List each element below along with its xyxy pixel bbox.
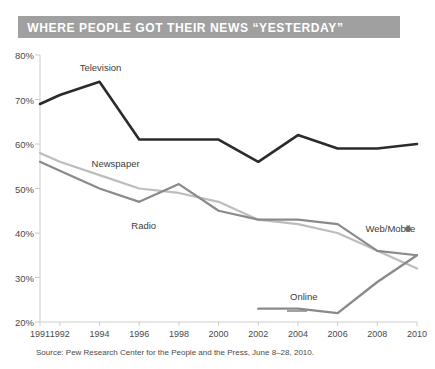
series-label-radio: Radio xyxy=(131,220,156,231)
y-axis-tick-label: 50% xyxy=(8,183,34,194)
y-axis-tick-label: 70% xyxy=(8,94,34,105)
y-axis-tick-label: 60% xyxy=(8,139,34,150)
y-axis-ticks xyxy=(35,55,40,322)
x-axis-tick-label: 1998 xyxy=(169,329,189,339)
series-label-online: Online xyxy=(290,291,317,302)
series-line-newspaper xyxy=(40,153,417,269)
x-axis-tick-label: 1996 xyxy=(129,329,149,339)
y-axis-tick-label: 80% xyxy=(8,50,34,61)
line-chart-svg xyxy=(0,0,435,369)
data-series-group xyxy=(40,82,417,313)
x-axis-ticks xyxy=(40,322,417,326)
web-mobile-marker-dot xyxy=(405,226,411,232)
source-note: Source: Pew Research Center for the Peop… xyxy=(36,348,314,357)
x-axis-tick-label: 2004 xyxy=(288,329,308,339)
x-axis-tick-label: 2002 xyxy=(248,329,268,339)
series-line-online xyxy=(258,255,417,313)
x-axis-tick-label: 1991 xyxy=(30,329,50,339)
x-axis-tick-label: 2000 xyxy=(209,329,229,339)
y-axis-tick-label: 40% xyxy=(8,228,34,239)
x-axis-tick-label: 1994 xyxy=(90,329,110,339)
axes-group xyxy=(40,55,417,322)
series-label-television: Television xyxy=(80,62,122,73)
series-line-television xyxy=(40,82,417,162)
x-axis-tick-label: 2006 xyxy=(328,329,348,339)
y-axis-tick-label: 30% xyxy=(8,272,34,283)
news-source-chart-figure: WHERE PEOPLE GOT THEIR NEWS “YESTERDAY” … xyxy=(0,0,435,369)
x-axis-tick-label: 1992 xyxy=(50,329,70,339)
series-label-newspaper: Newspaper xyxy=(92,158,140,169)
chart-plot-area: 20%30%40%50%60%70%80% 199119921994199619… xyxy=(0,0,435,369)
series-line-radio xyxy=(40,162,417,255)
y-axis-tick-label: 20% xyxy=(8,317,34,328)
x-axis-tick-label: 2010 xyxy=(407,329,427,339)
x-axis-tick-label: 2008 xyxy=(367,329,387,339)
